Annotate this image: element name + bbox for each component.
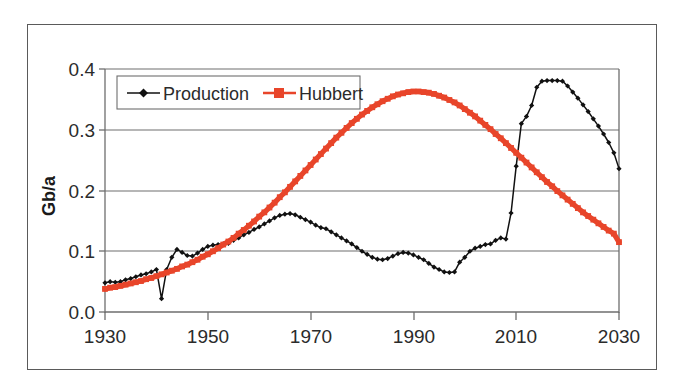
diamond-marker-icon bbox=[287, 211, 292, 216]
square-marker-icon bbox=[508, 145, 514, 151]
square-marker-icon bbox=[570, 201, 576, 207]
square-marker-icon bbox=[354, 116, 360, 122]
square-marker-icon bbox=[256, 214, 262, 220]
square-marker-icon bbox=[375, 101, 381, 107]
square-marker-icon bbox=[138, 278, 144, 284]
diamond-marker-icon bbox=[550, 78, 555, 83]
square-marker-icon bbox=[282, 189, 288, 195]
square-marker-icon bbox=[457, 103, 463, 109]
square-marker-icon bbox=[416, 89, 422, 95]
diamond-marker-icon bbox=[529, 103, 534, 108]
square-marker-icon bbox=[236, 231, 242, 237]
square-marker-icon bbox=[446, 97, 452, 103]
diamond-marker-icon bbox=[159, 296, 164, 301]
x-tick-label-1930: 1930 bbox=[84, 326, 126, 347]
diamond-marker-icon bbox=[498, 235, 503, 240]
square-marker-icon bbox=[303, 168, 309, 174]
square-marker-icon bbox=[349, 120, 355, 126]
square-marker-icon bbox=[344, 125, 350, 131]
square-marker-icon bbox=[200, 254, 206, 260]
diamond-marker-icon bbox=[154, 267, 159, 272]
square-marker-icon bbox=[554, 188, 560, 194]
y-tick-marks bbox=[99, 69, 105, 312]
square-marker-icon bbox=[472, 113, 478, 119]
square-marker-icon bbox=[210, 248, 216, 254]
x-tick-label-2030: 2030 bbox=[598, 326, 640, 347]
square-marker-icon bbox=[364, 108, 370, 114]
square-marker-icon bbox=[195, 257, 201, 263]
square-marker-icon bbox=[333, 135, 339, 141]
square-marker-icon bbox=[220, 242, 226, 248]
chart-legend: Production Hubbert bbox=[117, 76, 363, 109]
square-marker-icon bbox=[385, 96, 391, 102]
diamond-marker-icon bbox=[102, 280, 107, 285]
square-marker-icon bbox=[133, 279, 139, 285]
y-axis-title: Gb/a bbox=[39, 175, 59, 216]
square-marker-icon bbox=[539, 174, 545, 180]
square-marker-icon bbox=[411, 89, 417, 95]
square-marker-icon bbox=[297, 173, 303, 179]
diamond-marker-icon bbox=[133, 274, 138, 279]
square-marker-icon bbox=[513, 150, 519, 156]
y-tick-label-0.3: 0.3 bbox=[69, 120, 95, 141]
square-marker-icon bbox=[441, 95, 447, 101]
square-marker-icon bbox=[287, 184, 293, 190]
series-line-hubbert bbox=[105, 91, 619, 288]
diamond-marker-icon bbox=[385, 256, 390, 261]
square-marker-icon bbox=[274, 88, 284, 98]
diamond-marker-icon bbox=[555, 78, 560, 83]
square-marker-icon bbox=[503, 140, 509, 146]
square-marker-icon bbox=[164, 270, 170, 276]
y-tick-label-0.2: 0.2 bbox=[69, 181, 95, 202]
square-marker-icon bbox=[215, 245, 221, 251]
square-marker-icon bbox=[241, 227, 247, 233]
square-marker-icon bbox=[323, 146, 329, 152]
square-marker-icon bbox=[534, 169, 540, 175]
square-marker-icon bbox=[380, 98, 386, 104]
diamond-marker-icon bbox=[447, 270, 452, 275]
x-tick-label-1970: 1970 bbox=[290, 326, 332, 347]
diamond-marker-icon bbox=[138, 272, 143, 277]
diamond-marker-icon bbox=[544, 78, 549, 83]
square-marker-icon bbox=[524, 160, 530, 166]
square-marker-icon bbox=[328, 140, 334, 146]
series-layer bbox=[102, 78, 622, 301]
square-marker-icon bbox=[395, 92, 401, 98]
x-tick-label-2010: 2010 bbox=[495, 326, 537, 347]
diamond-marker-icon bbox=[503, 237, 508, 242]
diamond-marker-icon bbox=[303, 217, 308, 222]
square-marker-icon bbox=[549, 183, 555, 189]
diamond-marker-icon bbox=[149, 269, 154, 274]
x-tick-marks bbox=[105, 312, 619, 320]
legend-label-production: Production bbox=[163, 84, 249, 104]
square-marker-icon bbox=[246, 223, 252, 229]
square-marker-icon bbox=[154, 273, 160, 279]
diamond-marker-icon bbox=[144, 271, 149, 276]
square-marker-icon bbox=[462, 106, 468, 112]
diamond-marker-icon bbox=[416, 255, 421, 260]
y-tick-label-0.4: 0.4 bbox=[69, 59, 96, 80]
square-marker-icon bbox=[518, 155, 524, 161]
square-marker-icon bbox=[601, 224, 607, 230]
diamond-marker-icon bbox=[108, 279, 113, 284]
square-marker-icon bbox=[560, 192, 566, 198]
legend-label-hubbert: Hubbert bbox=[299, 84, 363, 104]
square-marker-icon bbox=[318, 151, 324, 157]
line-chart: 0.4 0.3 0.2 0.1 0.0 1930 1950 1970 1990 … bbox=[0, 0, 685, 391]
square-marker-icon bbox=[123, 282, 129, 288]
y-tick-labels: 0.4 0.3 0.2 0.1 0.0 bbox=[69, 59, 96, 323]
square-marker-icon bbox=[493, 131, 499, 137]
diamond-marker-icon bbox=[411, 252, 416, 257]
square-marker-icon bbox=[169, 268, 175, 274]
diamond-marker-icon bbox=[452, 269, 457, 274]
square-marker-icon bbox=[431, 91, 437, 97]
square-marker-icon bbox=[590, 217, 596, 223]
square-marker-icon bbox=[189, 259, 195, 265]
square-marker-icon bbox=[267, 205, 273, 211]
diamond-marker-icon bbox=[298, 215, 303, 220]
square-marker-icon bbox=[184, 262, 190, 268]
square-marker-icon bbox=[585, 213, 591, 219]
square-marker-icon bbox=[606, 228, 612, 234]
diamond-marker-icon bbox=[380, 257, 385, 262]
y-tick-label-0.1: 0.1 bbox=[69, 241, 95, 262]
